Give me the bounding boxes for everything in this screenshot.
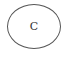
- node-label: C: [30, 21, 38, 32]
- node-ellipse-c: C: [7, 4, 61, 49]
